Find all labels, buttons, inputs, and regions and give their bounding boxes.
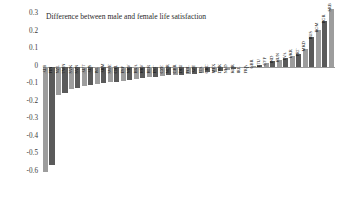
bar-label: ITA xyxy=(199,66,204,73)
bar-label: CZE xyxy=(160,65,165,73)
bar-label: UKR xyxy=(290,49,295,58)
bar-label: ISL xyxy=(95,67,100,74)
bar-label: CYP xyxy=(264,57,269,66)
chart-container: Difference between male and female life … xyxy=(0,0,339,210)
bar-label: HRV xyxy=(141,64,146,73)
y-axis-tick: 0.2 xyxy=(4,28,38,35)
y-axis: 0.30.20.10-0.1-0.2-0.3-0.4-0.5-0.6 xyxy=(0,0,38,210)
bar-label: ARM xyxy=(102,63,107,73)
bar-label: IRL xyxy=(238,66,243,73)
bar xyxy=(329,9,334,67)
bar-label: SWE xyxy=(108,64,113,73)
y-axis-tick: -0.1 xyxy=(4,81,38,88)
bar-label: BGR xyxy=(322,14,327,23)
bar-label: BLR xyxy=(147,65,152,74)
bar-label: GRC xyxy=(205,64,210,73)
bar-label: POL xyxy=(186,65,191,73)
y-axis-tick: 0 xyxy=(4,63,38,70)
bar-label: NLD xyxy=(225,64,230,73)
y-axis-tick: 0.1 xyxy=(4,46,38,53)
plot-area: ALBFINNZLTWNSVKSVNAUTAUSISLARMSWECHLESPN… xyxy=(43,14,335,172)
bar-label: LTU xyxy=(257,59,262,67)
bar-label: GBR xyxy=(173,64,178,73)
bar xyxy=(316,30,321,67)
bar-label: RUS xyxy=(309,31,314,40)
bar-label: BRA xyxy=(134,64,139,73)
bar xyxy=(322,21,327,67)
y-axis-tick: -0.5 xyxy=(4,151,38,158)
bar-label: FIN xyxy=(50,66,55,73)
bar-label: LVA xyxy=(283,52,288,60)
y-axis-tick: -0.6 xyxy=(4,168,38,175)
bar-label: FRA xyxy=(244,65,249,74)
bar-label: SVN xyxy=(76,64,81,73)
bar xyxy=(303,49,308,67)
bar-label: AZE xyxy=(192,65,197,74)
bar-label: DEU xyxy=(179,64,184,73)
bar-label: NRV xyxy=(128,64,133,73)
y-axis-tick: -0.4 xyxy=(4,133,38,140)
bar xyxy=(49,67,54,165)
bar-label: HUN xyxy=(277,53,282,63)
bar-label: SVK xyxy=(69,64,74,73)
bar-label: NZL xyxy=(56,65,61,74)
y-axis-tick: -0.2 xyxy=(4,98,38,105)
bar-label: ALB xyxy=(43,64,48,73)
bar-label: TWN xyxy=(63,63,68,73)
y-axis-tick: -0.3 xyxy=(4,116,38,123)
bar-label: AUS xyxy=(89,64,94,73)
bar-label: AUT xyxy=(82,64,87,73)
bar xyxy=(309,37,314,67)
bar-label: DNK xyxy=(218,64,223,74)
bar-label: GBR xyxy=(251,59,256,68)
bar-label: MEX xyxy=(212,63,217,73)
bar-label: MKD xyxy=(303,41,308,51)
bar-label: KOR xyxy=(231,64,236,73)
bar-label: NOR xyxy=(167,64,172,73)
bar-label: EST xyxy=(154,65,159,73)
bar-label: IND xyxy=(270,56,275,64)
bar-label: ESP xyxy=(121,66,126,74)
bar-label: ROM xyxy=(316,22,321,32)
bar-label: SRB xyxy=(329,3,334,11)
bar xyxy=(43,67,48,172)
bar-label: PRT xyxy=(296,48,301,56)
y-axis-tick: 0.3 xyxy=(4,10,38,17)
bar-label: CHL xyxy=(115,64,120,73)
